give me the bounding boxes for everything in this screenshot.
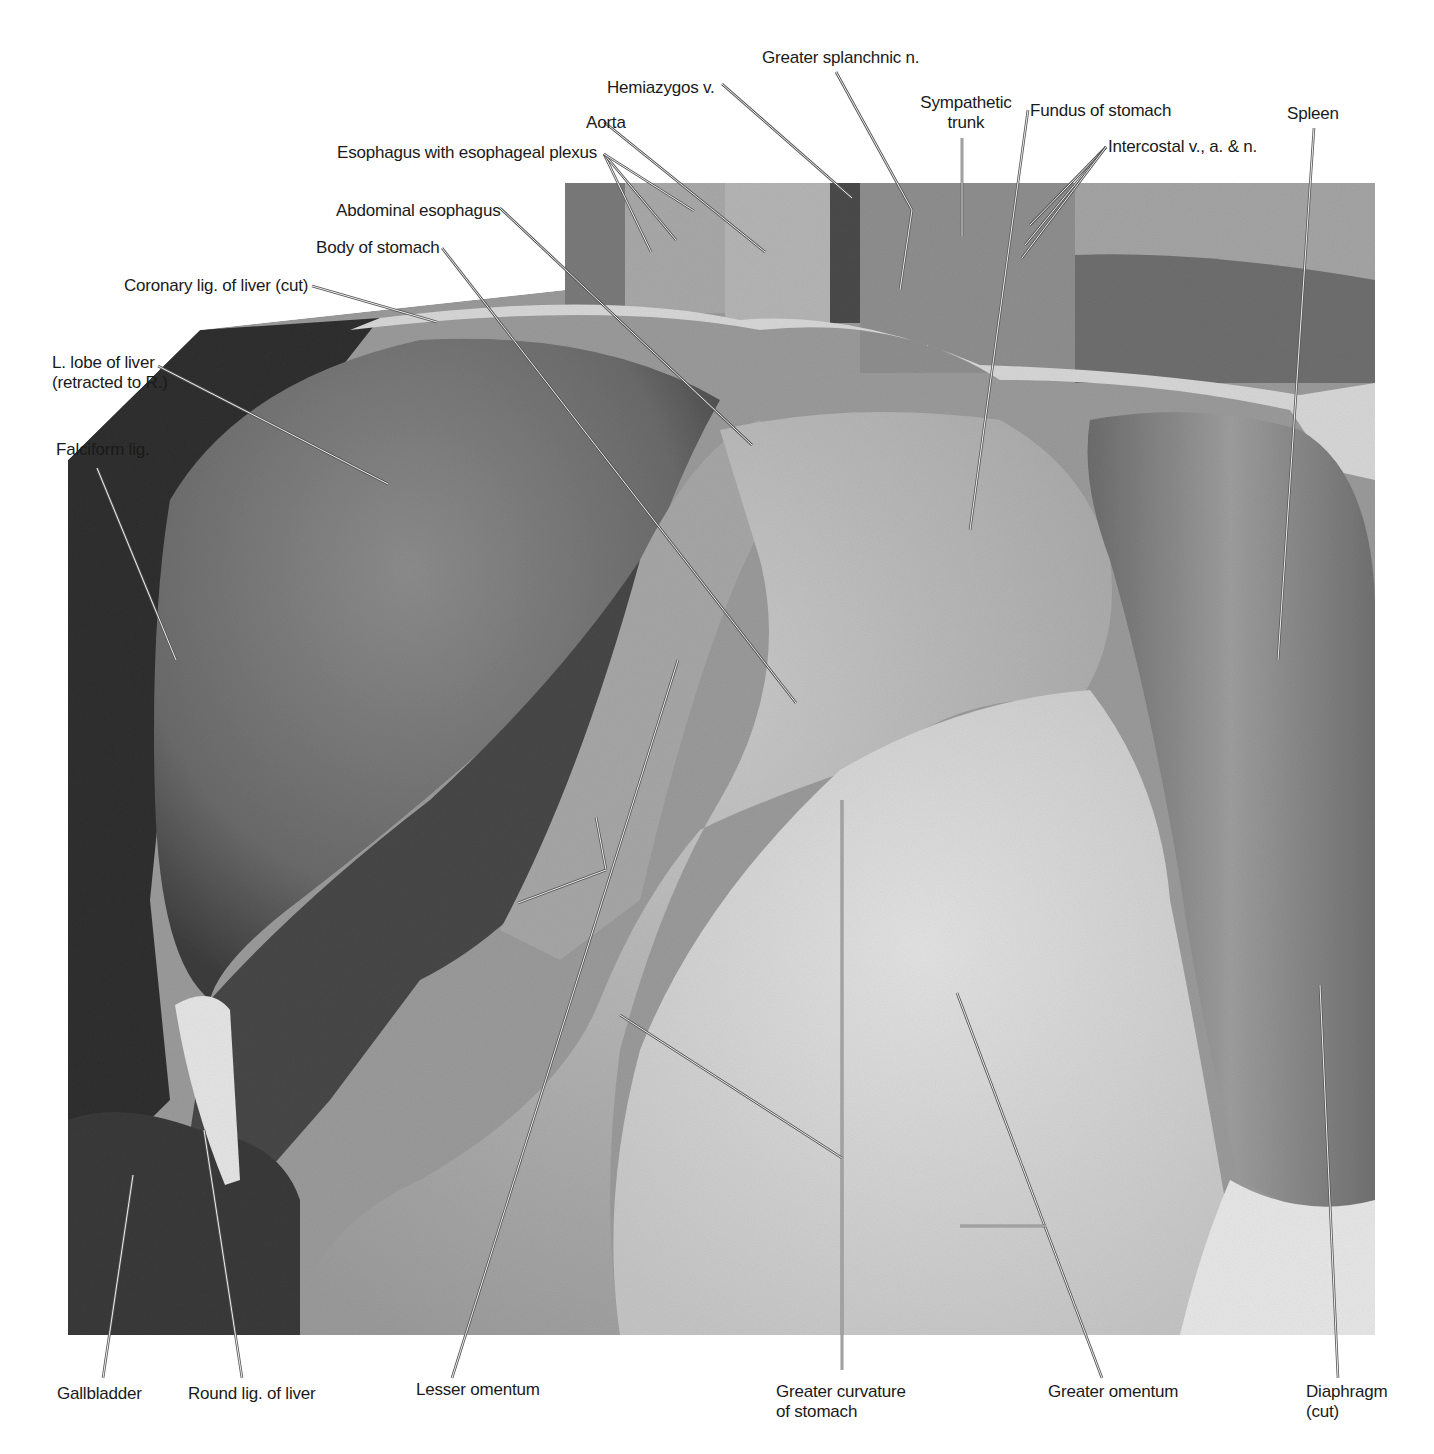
label-greater-omentum: Greater omentum	[1048, 1382, 1178, 1402]
label-l-lobe-of-liver: L. lobe of liver (retracted to R.)	[52, 353, 168, 393]
anatomy-figure: Greater splanchnic n. Hemiazygos v. Symp…	[0, 0, 1434, 1454]
label-coronary-lig: Coronary lig. of liver (cut)	[124, 276, 308, 296]
dissection-photo	[0, 0, 1434, 1454]
label-aorta: Aorta	[586, 113, 626, 133]
label-fundus-of-stomach: Fundus of stomach	[1030, 101, 1171, 121]
label-diaphragm-cut: Diaphragm (cut)	[1306, 1382, 1387, 1422]
label-greater-curvature: Greater curvature of stomach	[776, 1382, 906, 1422]
label-body-of-stomach: Body of stomach	[316, 238, 440, 258]
label-falciform-lig: Falciform lig.	[56, 440, 150, 460]
label-sympathetic-trunk: Sympathetic trunk	[916, 93, 1016, 133]
label-spleen: Spleen	[1287, 104, 1339, 124]
label-hemiazygos-v: Hemiazygos v.	[607, 78, 715, 98]
label-intercostal: Intercostal v., a. & n.	[1108, 137, 1257, 157]
label-lesser-omentum: Lesser omentum	[416, 1380, 540, 1400]
label-round-lig: Round lig. of liver	[188, 1384, 316, 1404]
label-abdominal-esophagus: Abdominal esophagus	[336, 201, 500, 221]
label-esophagus-plexus: Esophagus with esophageal plexus	[337, 143, 597, 163]
label-greater-splanchnic-n: Greater splanchnic n.	[762, 48, 919, 68]
label-gallbladder: Gallbladder	[57, 1384, 142, 1404]
